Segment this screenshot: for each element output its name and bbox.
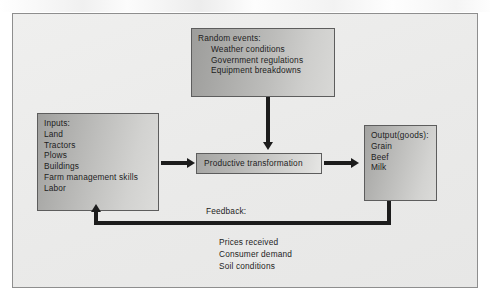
- scan-noise-artifact: [0, 0, 490, 12]
- output-box: Output(goods): Grain Beef Milk: [364, 125, 437, 201]
- productive-transformation-content: Productive transformation: [197, 154, 321, 173]
- feedback-item: Soil conditions: [219, 261, 292, 273]
- productive-transformation-label: Productive transformation: [204, 158, 303, 169]
- arrow-feedback-vertical-left: [94, 211, 98, 225]
- random-events-item: Equipment breakdowns: [211, 65, 328, 76]
- feedback-items: Prices received Consumer demand Soil con…: [219, 237, 292, 272]
- inputs-item: Land: [44, 129, 152, 140]
- random-events-box: Random events: Weather conditions Govern…: [191, 28, 335, 97]
- output-item: Milk: [371, 162, 430, 173]
- random-events-item: Government regulations: [211, 55, 328, 66]
- feedback-heading: Feedback:: [206, 206, 246, 216]
- arrow-random-events-to-process-head: [263, 142, 273, 150]
- random-events-item: Weather conditions: [211, 44, 328, 55]
- inputs-content: Inputs: Land Tractors Plows Buildings Fa…: [38, 114, 158, 210]
- arrow-inputs-to-process-line: [161, 161, 188, 165]
- inputs-box: Inputs: Land Tractors Plows Buildings Fa…: [37, 113, 159, 211]
- inputs-heading: Inputs:: [44, 118, 152, 129]
- output-item: Grain: [371, 141, 430, 152]
- inputs-item: Farm management skills: [44, 172, 152, 183]
- inputs-item: Labor: [44, 183, 152, 194]
- arrow-feedback-to-inputs-head: [91, 204, 101, 212]
- inputs-item: Tractors: [44, 140, 152, 151]
- output-content: Output(goods): Grain Beef Milk: [365, 126, 436, 200]
- inputs-item: Plows: [44, 150, 152, 161]
- arrow-process-to-output-line: [324, 161, 352, 165]
- feedback-item: Prices received: [219, 237, 292, 249]
- output-item: Beef: [371, 152, 430, 163]
- arrow-random-events-to-process-line: [266, 97, 270, 143]
- arrow-process-to-output-head: [351, 158, 359, 168]
- random-events-content: Random events: Weather conditions Govern…: [192, 29, 334, 96]
- productive-transformation-box: Productive transformation: [196, 153, 322, 174]
- random-events-heading: Random events:: [198, 33, 328, 44]
- feedback-item: Consumer demand: [219, 249, 292, 261]
- output-heading: Output(goods):: [371, 130, 430, 141]
- arrow-feedback-horizontal: [94, 221, 391, 225]
- diagram-canvas: Random events: Weather conditions Govern…: [0, 0, 490, 297]
- inputs-item: Buildings: [44, 161, 152, 172]
- arrow-inputs-to-process-head: [187, 158, 195, 168]
